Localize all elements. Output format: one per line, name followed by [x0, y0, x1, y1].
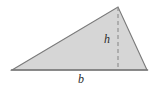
triangle-figure: h b	[0, 0, 160, 89]
base-label: b	[78, 73, 84, 85]
triangle-shape	[12, 7, 147, 70]
height-label: h	[104, 33, 110, 45]
